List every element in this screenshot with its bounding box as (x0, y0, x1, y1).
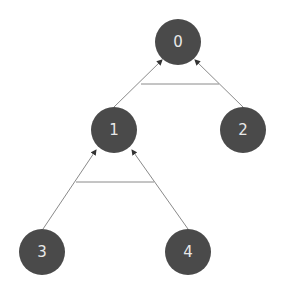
node-label: 1 (109, 121, 119, 139)
tree-diagram: 0 1 2 3 4 (0, 0, 281, 295)
node-3[interactable]: 3 (19, 229, 65, 275)
node-label: 3 (37, 243, 47, 261)
edge-4-to-1 (132, 150, 188, 229)
edges (43, 60, 243, 229)
edge-3-to-1 (43, 150, 96, 229)
node-4[interactable]: 4 (165, 229, 211, 275)
node-2[interactable]: 2 (220, 107, 266, 153)
node-label: 4 (183, 243, 193, 261)
node-label: 2 (238, 121, 248, 139)
node-0[interactable]: 0 (155, 19, 201, 65)
node-label: 0 (173, 33, 183, 51)
node-1[interactable]: 1 (91, 107, 137, 153)
